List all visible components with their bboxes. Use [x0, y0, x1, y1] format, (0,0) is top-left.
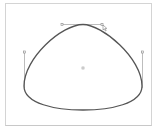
- right-handle-point[interactable]: [142, 51, 144, 53]
- top-handle-in-point[interactable]: [61, 24, 63, 26]
- handle-lines: [25, 25, 143, 89]
- top-handle-out-point[interactable]: [101, 24, 103, 26]
- left-handle-point[interactable]: [24, 51, 26, 53]
- arrow-cursor-icon: [103, 25, 107, 31]
- center-point[interactable]: [82, 67, 84, 69]
- drawing-canvas[interactable]: [0, 0, 156, 132]
